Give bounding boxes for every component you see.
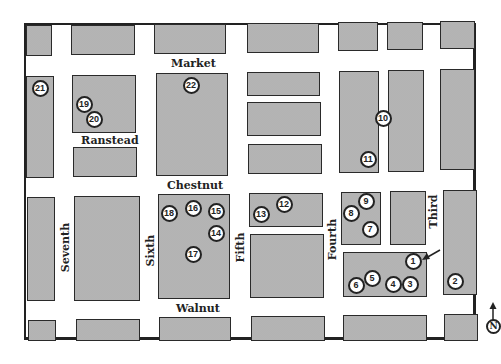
city-block — [27, 197, 55, 301]
street-label-ranstead: Ranstead — [81, 134, 139, 147]
city-block — [247, 102, 321, 136]
map-marker-20[interactable]: 20 — [86, 111, 103, 128]
map-marker-12[interactable]: 12 — [276, 196, 293, 213]
city-block — [26, 25, 52, 56]
map-marker-6[interactable]: 6 — [348, 277, 365, 294]
street-label-chestnut: Chestnut — [167, 179, 223, 192]
map-marker-14[interactable]: 14 — [208, 225, 225, 242]
map-marker-15[interactable]: 15 — [208, 203, 225, 220]
map-marker-5[interactable]: 5 — [364, 270, 381, 287]
north-arrow-icon — [486, 302, 501, 320]
map-marker-8[interactable]: 8 — [343, 205, 360, 222]
city-block — [71, 25, 135, 55]
map-marker-10[interactable]: 10 — [375, 110, 392, 127]
map-marker-19[interactable]: 19 — [76, 96, 93, 113]
map-marker-16[interactable]: 16 — [185, 200, 202, 217]
city-block — [159, 317, 231, 341]
city-block — [247, 23, 319, 53]
city-map: Market Ranstead Chestnut Walnut Seventh … — [0, 0, 501, 364]
city-block — [251, 316, 325, 341]
city-block — [250, 234, 324, 298]
street-label-market: Market — [171, 57, 216, 70]
city-block — [247, 72, 320, 96]
map-marker-18[interactable]: 18 — [161, 205, 178, 222]
map-marker-2[interactable]: 2 — [447, 273, 464, 290]
pointer-arrow-icon — [420, 248, 442, 262]
city-block — [248, 144, 322, 174]
map-marker-13[interactable]: 13 — [253, 206, 270, 223]
map-marker-4[interactable]: 4 — [385, 276, 402, 293]
north-label: N — [486, 319, 501, 334]
city-block — [154, 24, 226, 54]
street-label-seventh: Seventh — [59, 223, 72, 273]
city-block — [390, 191, 426, 245]
street-label-fifth: Fifth — [234, 228, 247, 268]
map-marker-1[interactable]: 1 — [405, 253, 422, 270]
city-block — [444, 314, 478, 341]
city-block — [440, 69, 475, 170]
map-marker-22[interactable]: 22 — [183, 77, 200, 94]
city-block — [338, 22, 378, 51]
map-marker-3[interactable]: 3 — [402, 276, 419, 293]
map-marker-21[interactable]: 21 — [32, 80, 49, 97]
map-marker-7[interactable]: 7 — [362, 221, 379, 238]
street-label-third: Third — [427, 192, 440, 232]
city-block — [76, 319, 140, 341]
city-block — [343, 315, 427, 341]
map-marker-11[interactable]: 11 — [360, 151, 377, 168]
city-block — [440, 21, 475, 49]
city-block — [387, 22, 423, 50]
street-label-walnut: Walnut — [176, 302, 220, 315]
street-label-fourth: Fourth — [326, 217, 339, 263]
city-block — [388, 70, 424, 172]
city-block — [73, 147, 137, 177]
map-marker-17[interactable]: 17 — [185, 246, 202, 263]
city-block — [74, 196, 140, 301]
city-block — [28, 320, 56, 341]
map-marker-9[interactable]: 9 — [358, 193, 375, 210]
street-label-sixth: Sixth — [144, 231, 157, 271]
